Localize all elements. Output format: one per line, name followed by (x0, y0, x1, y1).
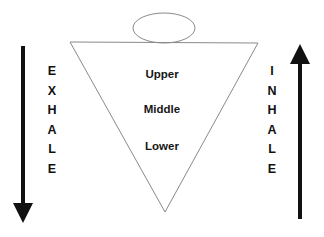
down-arrow-head (13, 203, 33, 223)
up-arrow-icon (290, 44, 310, 219)
zone-label-middle: Middle (107, 103, 217, 115)
exhale-label: E X H A L E (41, 62, 63, 179)
inhale-label: I N H A L E (261, 62, 283, 179)
down-arrow-icon (13, 46, 33, 223)
zone-label-lower: Lower (107, 140, 217, 152)
up-arrow-head (290, 44, 310, 64)
breathing-zones-diagram: E X H A L E I N H A L E Upper Middle Low… (0, 0, 324, 237)
zone-label-upper: Upper (107, 68, 217, 80)
head-ellipse (133, 13, 195, 43)
